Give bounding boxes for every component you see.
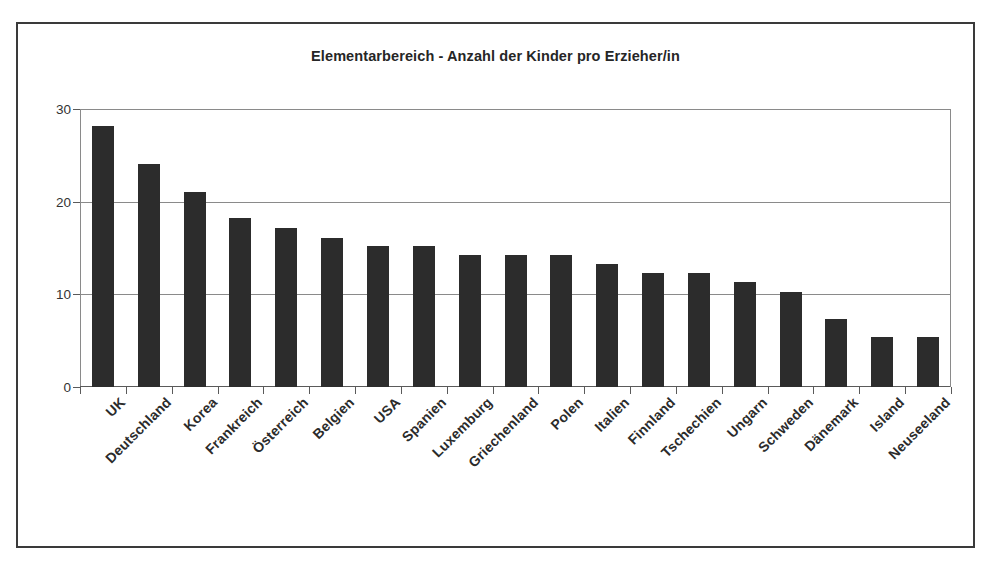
x-tick-mark-8 — [447, 387, 448, 394]
x-axis-label-ungarn: Ungarn — [723, 394, 770, 441]
bar-polen — [550, 255, 572, 387]
bar-korea — [184, 192, 206, 387]
x-tick-mark-14 — [722, 387, 723, 394]
x-tick-mark-13 — [676, 387, 677, 394]
chart-title: Elementarbereich - Anzahl der Kinder pro… — [18, 48, 973, 64]
x-tick-mark-7 — [401, 387, 402, 394]
x-tick-mark-2 — [172, 387, 173, 394]
bar-d-nemark — [825, 319, 847, 387]
x-tick-mark-5 — [309, 387, 310, 394]
x-axis-label-island: Island — [867, 394, 908, 435]
x-tick-mark-12 — [630, 387, 631, 394]
x-tick-mark-1 — [126, 387, 127, 394]
bar-griechenland — [505, 255, 527, 388]
x-axis-label-uk: UK — [102, 394, 128, 420]
bar-luxemburg — [459, 255, 481, 388]
x-tick-mark-4 — [263, 387, 264, 394]
x-tick-mark-3 — [218, 387, 219, 394]
x-tick-mark-17 — [859, 387, 860, 394]
bar-ungarn — [734, 282, 756, 387]
x-tick-mark-9 — [493, 387, 494, 394]
x-tick-mark-11 — [584, 387, 585, 394]
x-tick-mark-end — [951, 387, 952, 394]
chart-figure: Elementarbereich - Anzahl der Kinder pro… — [16, 22, 975, 548]
y-tick-label-20: 20 — [56, 194, 71, 209]
x-tick-mark-0 — [80, 387, 81, 394]
bar-italien — [596, 264, 618, 387]
bar-uk — [92, 126, 114, 387]
bar-series — [80, 109, 951, 387]
bar-island — [871, 337, 893, 387]
bar-finnland — [642, 273, 664, 387]
bar-spanien — [413, 246, 435, 387]
bar-tschechien — [688, 273, 710, 387]
y-tick-label-0: 0 — [63, 380, 71, 395]
x-tick-mark-6 — [355, 387, 356, 394]
bar-deutschland — [138, 164, 160, 387]
x-tick-mark-10 — [538, 387, 539, 394]
plot-area: 0102030 — [80, 109, 951, 387]
x-axis-labels: UKDeutschlandKoreaFrankreichÖsterreichBe… — [80, 394, 960, 544]
x-tick-mark-18 — [905, 387, 906, 394]
y-tick-mark-0 — [73, 387, 80, 388]
y-tick-mark-30 — [73, 109, 80, 110]
bar--sterreich — [275, 228, 297, 387]
y-tick-label-30: 30 — [56, 102, 71, 117]
x-tick-mark-16 — [813, 387, 814, 394]
x-axis-label-korea: Korea — [180, 394, 220, 434]
x-axis-label-polen: Polen — [548, 394, 587, 433]
y-tick-mark-10 — [73, 294, 80, 295]
x-axis-label-usa: USA — [371, 394, 404, 427]
y-tick-mark-20 — [73, 202, 80, 203]
bar-schweden — [780, 292, 802, 387]
bar-belgien — [321, 238, 343, 387]
x-axis-label-italien: Italien — [592, 394, 633, 435]
bar-usa — [367, 246, 389, 387]
bar-frankreich — [229, 218, 251, 387]
y-tick-label-10: 10 — [56, 287, 71, 302]
x-axis-label-belgien: Belgien — [309, 394, 357, 442]
x-tick-mark-15 — [768, 387, 769, 394]
bar-neuseeland — [917, 337, 939, 387]
